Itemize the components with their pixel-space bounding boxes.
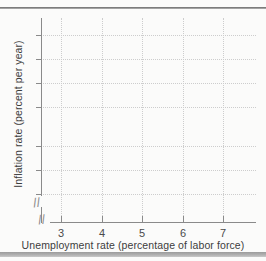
y-axis-break-icon: // xyxy=(32,196,41,210)
x-tick-label: 4 xyxy=(94,228,110,239)
phillips-curve-figure: 8 7 6 5 4 3 2 3 4 5 6 7 // // Unemployme… xyxy=(0,0,266,261)
x-tick-label: 6 xyxy=(175,228,191,239)
y-tick-6 xyxy=(36,83,42,84)
y-tick-7 xyxy=(36,59,42,60)
gridline-vertical xyxy=(223,18,224,222)
page-bottom-rule xyxy=(0,252,266,257)
y-tick-3 xyxy=(36,170,42,171)
x-axis-title: Unemployment rate (percentage of labor f… xyxy=(0,239,266,251)
gridline-vertical xyxy=(61,18,62,222)
y-tick-5 xyxy=(36,107,42,108)
plot-area xyxy=(41,18,256,222)
y-axis-title: Inflation rate (percent per year) xyxy=(12,14,24,214)
x-tick-label: 3 xyxy=(53,228,69,239)
x-tick-5 xyxy=(142,216,143,222)
gridline-vertical xyxy=(102,18,103,222)
x-tick-3 xyxy=(61,216,62,222)
y-tick-8 xyxy=(36,35,42,36)
y-tick-4 xyxy=(36,146,42,147)
x-axis-line xyxy=(50,222,256,223)
x-tick-label: 7 xyxy=(215,228,231,239)
page-top-rule xyxy=(0,7,266,9)
x-tick-7 xyxy=(223,216,224,222)
gridline-vertical xyxy=(183,18,184,222)
x-tick-label: 5 xyxy=(134,228,150,239)
x-tick-4 xyxy=(102,216,103,222)
gridline-vertical xyxy=(142,18,143,222)
x-tick-6 xyxy=(183,216,184,222)
